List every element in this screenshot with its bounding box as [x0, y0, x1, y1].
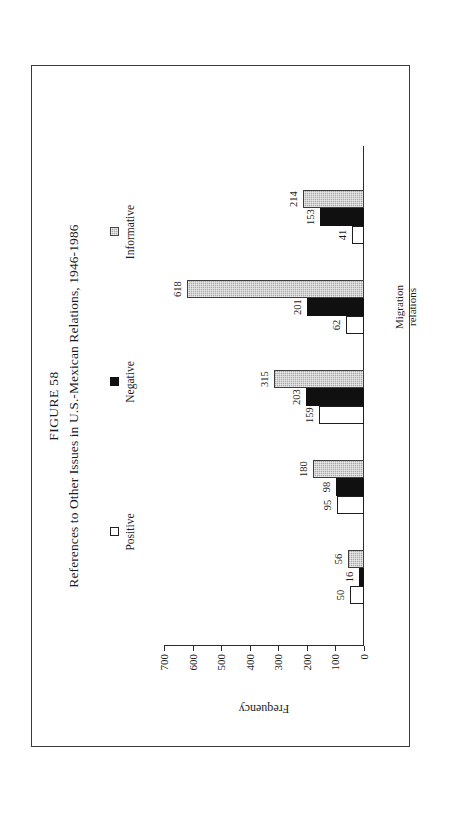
bar-value-label: 618	[172, 281, 183, 297]
bar-value-label: 214	[287, 191, 298, 207]
bar-value-label: 16	[344, 572, 355, 583]
y-axis-tick	[192, 646, 193, 651]
bar-negative: 153	[320, 208, 364, 226]
legend-label: Informative	[124, 205, 136, 259]
bar-group: 41153214Drugtrafficking	[302, 178, 363, 256]
page-title: References to Other Issues in U.S.-Mexic…	[63, 70, 84, 742]
y-axis-tick	[249, 646, 250, 651]
bar-positive: 41	[352, 226, 364, 244]
y-axis-tick	[306, 646, 307, 651]
bar-informative: 618	[187, 280, 364, 298]
y-axis-tick-label: 300	[272, 654, 284, 694]
y-axis-tick-label: 500	[215, 654, 227, 694]
bar-negative: 98	[336, 478, 364, 496]
bar-value-label: 203	[291, 389, 302, 405]
filled-square-icon	[110, 378, 119, 387]
bar-informative: 56	[348, 550, 364, 568]
chart-legend: PositiveNegativeInformative	[110, 172, 136, 592]
bar-group: 62201618Migrationrelations	[187, 268, 364, 346]
bar-positive: 159	[318, 406, 363, 424]
plot-area: Frequency 0100200300400500600700 501656M…	[164, 146, 364, 646]
legend-item: Positive	[110, 472, 136, 592]
bar-value-label: 62	[331, 320, 342, 331]
y-axis-tick	[164, 646, 165, 651]
legend-label: Negative	[124, 361, 136, 403]
bar-negative: 16	[359, 568, 364, 586]
legend-item: Negative	[110, 322, 136, 442]
y-axis-title: Frequency	[238, 701, 289, 716]
bar-negative: 201	[306, 298, 363, 316]
bar-value-label: 98	[321, 482, 332, 493]
legend-item: Informative	[110, 172, 136, 292]
bar-value-label: 201	[291, 299, 302, 315]
figure-number: FIGURE 58	[44, 70, 63, 742]
rotated-figure-stage: FIGURE 58 References to Other Issues in …	[36, 70, 406, 742]
bar-positive: 95	[336, 496, 363, 514]
y-axis-tick-label: 400	[243, 654, 255, 694]
y-axis-tick-label: 100	[329, 654, 341, 694]
figure-page-frame: FIGURE 58 References to Other Issues in …	[31, 65, 410, 747]
y-axis-tick-label: 0	[358, 654, 370, 694]
bar-group: 9598180Energyrelations	[312, 448, 363, 526]
x-axis-category-label: Migrationrelations	[393, 285, 418, 329]
bar-value-label: 56	[333, 554, 344, 565]
hatched-square-icon	[110, 228, 119, 237]
bar-positive: 62	[346, 316, 364, 334]
y-axis-tick	[221, 646, 222, 651]
y-axis-tick-label: 200	[300, 654, 312, 694]
bar-value-label: 159	[303, 407, 314, 423]
y-axis-tick	[335, 646, 336, 651]
figure-title-block: FIGURE 58 References to Other Issues in …	[44, 70, 84, 742]
bar-value-label: 50	[334, 590, 345, 601]
bar-value-label: 41	[337, 230, 348, 241]
bar-value-label: 315	[259, 371, 270, 387]
bar-value-label: 153	[305, 209, 316, 225]
category-label-line: Migration	[393, 285, 406, 329]
bar-group: 159203315Borderrelations	[274, 358, 364, 436]
open-square-icon	[110, 528, 119, 537]
bar-value-label: 180	[297, 461, 308, 477]
bar-value-label: 95	[321, 500, 332, 511]
y-axis-tick-label: 700	[158, 654, 170, 694]
bar-informative: 315	[274, 370, 364, 388]
legend-label: Positive	[124, 513, 136, 550]
bar-group: 501656Militaryrelations	[348, 538, 364, 616]
bar-informative: 214	[302, 190, 363, 208]
category-label-line: relations	[405, 285, 418, 329]
bar-positive: 50	[349, 586, 363, 604]
bar-informative: 180	[312, 460, 363, 478]
y-axis-tick	[278, 646, 279, 651]
y-axis-tick-label: 600	[186, 654, 198, 694]
bar-negative: 203	[306, 388, 364, 406]
y-axis-tick	[364, 646, 365, 651]
